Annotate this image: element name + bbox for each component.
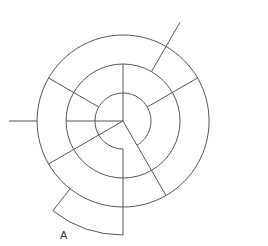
spoke-upper-left [49, 78, 99, 107]
spiral-diagram: A [0, 0, 268, 246]
spoke-lower-right [123, 121, 166, 195]
start-label-a: A [60, 229, 68, 241]
spoke-upper-right-outer [152, 22, 181, 71]
diagram-canvas: A [0, 0, 268, 246]
spoke-lower-left [49, 121, 123, 164]
band-end-a [53, 189, 70, 211]
spoke-upper-right [147, 78, 197, 107]
